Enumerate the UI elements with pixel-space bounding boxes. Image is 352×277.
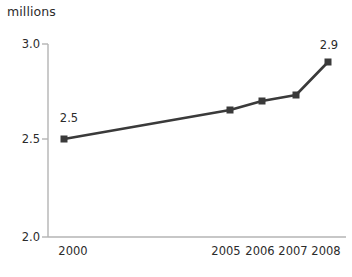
data-marker-2006 (259, 98, 266, 105)
data-label-2008: 2.9 (320, 38, 338, 52)
x-tick-label-2000: 2000 (58, 244, 87, 258)
x-tick-label-2006: 2006 (245, 244, 274, 258)
y-tick-label-3-0: 3.0 (6, 37, 40, 51)
x-tick-label-2007: 2007 (278, 244, 307, 258)
data-marker-2008 (325, 59, 332, 66)
data-marker-2000 (61, 136, 68, 143)
data-marker-2007 (293, 92, 300, 99)
line-chart: millions 3.0 2.5 2.0 2000 2005 2006 2007… (0, 0, 352, 277)
y-tick-label-2-0: 2.0 (6, 230, 40, 244)
x-tick-label-2005: 2005 (211, 244, 240, 258)
data-line-series-1 (64, 62, 328, 139)
y-tick-label-2-5: 2.5 (6, 132, 40, 146)
data-label-2000: 2.5 (60, 111, 78, 125)
x-tick-label-2008: 2008 (311, 244, 340, 258)
data-marker-2005 (227, 107, 234, 114)
plot-area (0, 0, 352, 277)
